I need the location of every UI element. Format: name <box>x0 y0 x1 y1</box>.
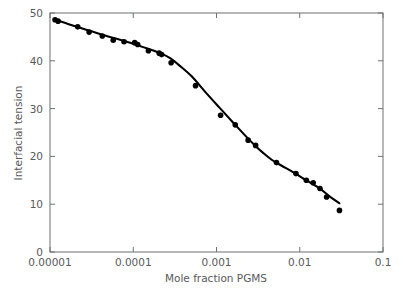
x-tick-label: 0.00001 <box>28 256 71 268</box>
data-point <box>193 83 199 89</box>
x-tick-label: 0.001 <box>201 256 231 268</box>
data-point <box>146 48 152 54</box>
data-point <box>293 171 299 177</box>
y-tick-label: 30 <box>30 103 43 115</box>
y-tick-label: 50 <box>30 7 43 19</box>
data-point <box>159 52 165 58</box>
data-point <box>110 37 116 43</box>
data-point <box>310 180 316 186</box>
data-point <box>55 18 61 24</box>
x-tick-label: 0.0001 <box>115 256 152 268</box>
data-point <box>337 208 343 214</box>
data-point <box>86 29 92 35</box>
y-tick-label: 10 <box>30 198 43 210</box>
data-point <box>232 122 238 128</box>
data-point <box>100 33 106 39</box>
data-point <box>75 24 81 30</box>
data-point <box>317 186 323 192</box>
x-axis-title: Mole fraction PGMS <box>165 272 267 284</box>
data-point <box>253 143 259 149</box>
data-point <box>121 39 127 45</box>
y-axis-title: Interfacial tension <box>12 86 24 181</box>
data-point <box>274 160 280 166</box>
chart-background <box>0 0 403 299</box>
data-point <box>218 112 224 118</box>
data-point <box>324 194 330 200</box>
data-point <box>245 137 251 143</box>
data-point <box>135 42 141 48</box>
y-tick-label: 20 <box>30 150 43 162</box>
x-tick-label: 0.1 <box>375 256 392 268</box>
chart-canvas: 01020304050 0.000010.00010.0010.010.1 Mo… <box>0 0 403 299</box>
interfacial-tension-chart: 01020304050 0.000010.00010.0010.010.1 Mo… <box>0 0 403 299</box>
data-point <box>168 60 174 66</box>
data-point <box>304 178 310 184</box>
x-tick-label: 0.01 <box>288 256 311 268</box>
y-tick-label: 40 <box>30 55 43 67</box>
